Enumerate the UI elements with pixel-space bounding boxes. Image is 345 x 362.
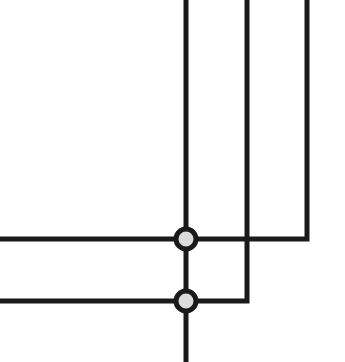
junction-node-upper[interactable] xyxy=(176,229,196,249)
schematic-svg xyxy=(0,0,345,362)
schematic-canvas xyxy=(0,0,345,362)
junction-node-lower[interactable] xyxy=(176,291,196,311)
canvas-background xyxy=(0,0,345,362)
